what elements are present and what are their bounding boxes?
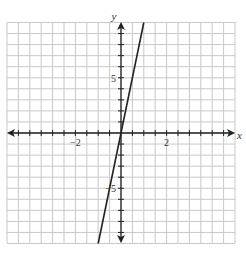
x-axis-label: x	[236, 129, 242, 141]
x-tick-label-2: 2	[164, 137, 169, 148]
x-tick-label-neg2: −2	[70, 137, 81, 148]
y-axis-label: y	[111, 10, 117, 22]
coordinate-plane: x y −2 2 5 −5	[0, 0, 246, 256]
y-tick-label-neg5: −5	[105, 183, 116, 194]
y-tick-label-5: 5	[111, 73, 116, 84]
